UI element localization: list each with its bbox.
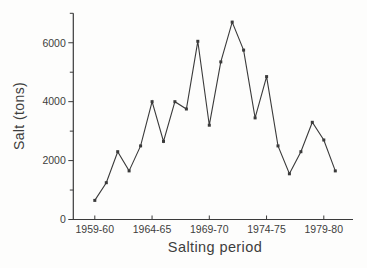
- x-tick-label: 1974-75: [247, 223, 286, 235]
- y-tick-label: 2000: [42, 154, 66, 166]
- data-point: [231, 21, 234, 24]
- x-tick-label: 1979-80: [305, 223, 344, 235]
- data-line: [95, 22, 335, 200]
- data-point: [299, 150, 302, 153]
- data-point: [265, 75, 268, 78]
- y-tick-label: 6000: [42, 37, 66, 49]
- y-axis-title: Salt (tons): [10, 16, 28, 216]
- data-point: [219, 60, 222, 63]
- data-point: [162, 140, 165, 143]
- data-point: [322, 139, 325, 142]
- data-point: [334, 169, 337, 172]
- axis-spine: [73, 13, 353, 219]
- x-tick-label: 1969-70: [190, 223, 229, 235]
- data-point: [311, 121, 314, 124]
- x-axis-title: Salting period: [95, 239, 335, 255]
- data-point: [128, 169, 131, 172]
- data-point: [196, 40, 199, 43]
- data-point: [208, 124, 211, 127]
- data-point: [93, 199, 96, 202]
- data-point: [254, 116, 257, 119]
- data-point: [242, 49, 245, 52]
- data-point: [288, 172, 291, 175]
- data-point: [151, 100, 154, 103]
- data-point: [277, 144, 280, 147]
- data-point: [185, 108, 188, 111]
- x-tick-label: 1964-65: [133, 223, 172, 235]
- y-tick-label: 0: [60, 213, 66, 225]
- data-point: [116, 150, 119, 153]
- data-point: [173, 100, 176, 103]
- data-point: [139, 144, 142, 147]
- salt-landings-line-chart: 02000400060001959-601964-651969-701974-7…: [0, 0, 367, 268]
- data-point: [105, 181, 108, 184]
- x-tick-label: 1959-60: [76, 223, 115, 235]
- y-tick-label: 4000: [42, 95, 66, 107]
- chart-plot-area: 02000400060001959-601964-651969-701974-7…: [0, 0, 367, 268]
